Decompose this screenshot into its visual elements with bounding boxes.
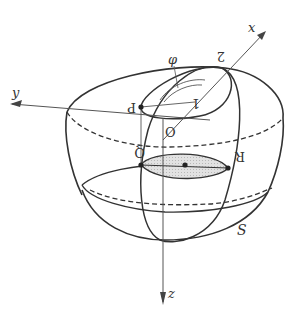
point-r bbox=[225, 165, 230, 170]
surface-s-label: S bbox=[237, 222, 247, 238]
phi-label: φ bbox=[168, 52, 178, 67]
z-axis-arrow bbox=[160, 292, 166, 305]
point-q bbox=[138, 162, 143, 167]
bowl-right-side bbox=[268, 118, 283, 192]
point-r-label: R bbox=[234, 149, 245, 164]
point-1-label: 1 bbox=[192, 96, 200, 111]
x-axis-label: x bbox=[248, 20, 256, 35]
y-axis bbox=[12, 104, 210, 120]
p-to-1-line bbox=[141, 102, 195, 107]
bowl-diagram: y x z O P Q R 1 2 φ S bbox=[0, 0, 300, 316]
point-p bbox=[138, 104, 143, 109]
equator-dashed bbox=[90, 188, 272, 205]
section-center-dot bbox=[182, 162, 187, 167]
point-2-label: 2 bbox=[217, 49, 225, 64]
point-q-label: Q bbox=[134, 145, 145, 160]
y-axis-label: y bbox=[11, 85, 20, 100]
x-axis bbox=[163, 33, 264, 140]
origin-label: O bbox=[165, 125, 176, 140]
y-axis-arrow bbox=[10, 100, 22, 107]
z-axis-label: z bbox=[167, 286, 175, 301]
point-p-label: P bbox=[127, 100, 136, 115]
